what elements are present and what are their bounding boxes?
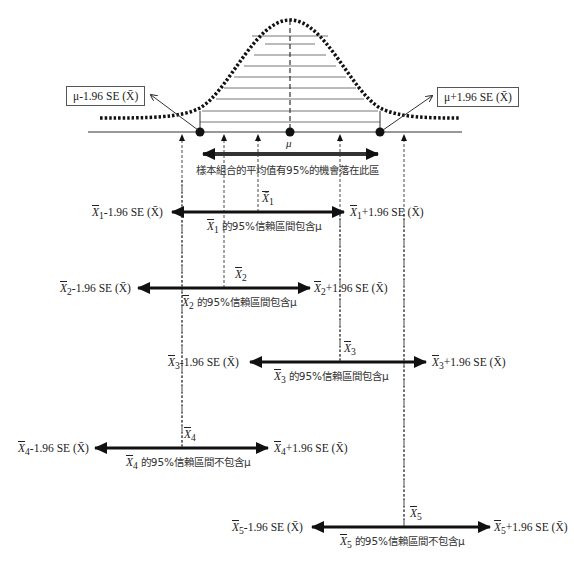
interval-3-lower: X3-1.96 SE (X̄) <box>168 355 239 373</box>
interval-2-mean: X2 <box>235 267 247 285</box>
interval-5-caption: X5 的95%信賴區間不包含μ <box>340 534 465 552</box>
interval-4-caption: X4 的95%信賴區間不包含μ <box>126 455 251 473</box>
interval-1-caption: X1 的95%信賴區間包含μ <box>207 219 322 237</box>
interval-3-upper: X3+1.96 SE (X̄) <box>432 355 506 373</box>
interval-4-mean: X4 <box>184 427 196 445</box>
normal-curve <box>100 20 460 118</box>
interval-2-caption: X2 的95%信賴區間包含μ <box>182 295 297 313</box>
interval-5-lower: X5-1.96 SE (X̄) <box>232 520 303 538</box>
upper-bound-box: μ+1.96 SE (X̄) <box>437 87 519 107</box>
interval-4-upper: X4+1.96 SE (X̄) <box>274 441 348 459</box>
interval-1-upper: X1+1.96 SE (X̄) <box>350 205 424 223</box>
interval-2-lower: X2-1.96 SE (X̄) <box>60 281 131 299</box>
interval-3-caption: X3 的95%信賴區間包含μ <box>274 369 389 387</box>
interval-1-lower: X1-1.96 SE (X̄) <box>92 205 163 223</box>
lower-bound-box: μ-1.96 SE (X̄) <box>66 86 145 106</box>
interval-4-lower: X4-1.96 SE (X̄) <box>18 441 89 459</box>
interval-5-mean: X5 <box>410 506 422 524</box>
interval-3-mean: X3 <box>344 341 356 359</box>
central-region-caption: 樣本組合的平均值有95%的機會落在此區 <box>196 163 379 177</box>
mu-label: μ <box>286 136 292 150</box>
interval-5-upper: X5+1.96 SE (X̄) <box>494 520 568 538</box>
interval-2-upper: X2+1.96 SE (X̄) <box>314 281 388 299</box>
interval-1-mean: X̄1 <box>262 191 274 209</box>
